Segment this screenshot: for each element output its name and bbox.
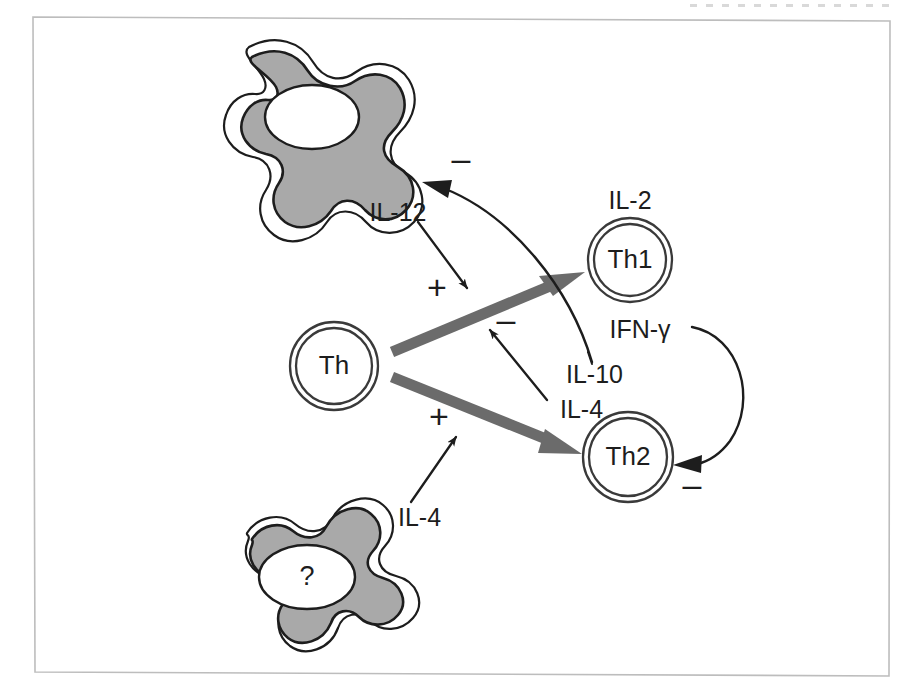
il10-minus-sign: – xyxy=(452,139,471,177)
ifn-gamma-minus-sign: – xyxy=(683,465,702,503)
il4-bottom-label: IL-4 xyxy=(398,503,441,531)
th2-label: Th2 xyxy=(606,441,651,471)
figure-frame xyxy=(33,17,890,676)
il2-label: IL-2 xyxy=(608,186,651,214)
th2-cell: Th2 xyxy=(583,412,673,502)
ifn-gamma-inhibition-arrow xyxy=(673,327,743,473)
macrophage-bottom: ? xyxy=(246,499,419,652)
macrophage-bottom-nucleus-label: ? xyxy=(299,561,314,591)
il4-middle-label: IL-4 xyxy=(560,395,603,423)
il12-label: IL-12 xyxy=(370,198,427,226)
th1-cell: Th1 xyxy=(588,218,672,302)
il4-bottom-plus-sign: + xyxy=(429,397,449,435)
figure-root: ? Th Th1 Th2 xyxy=(0,0,915,697)
scan-artifact-dots xyxy=(690,4,889,7)
diagram-canvas: ? Th Th1 Th2 xyxy=(0,0,915,697)
il12-plus-sign: + xyxy=(427,268,447,306)
ifn-gamma-label: IFN-γ xyxy=(609,315,671,343)
th-to-th2-arrow xyxy=(392,377,582,454)
il4-bottom-arrow xyxy=(411,437,456,502)
th1-label: Th1 xyxy=(608,244,653,274)
il4-minus-sign: – xyxy=(497,300,516,338)
macrophage-top-nucleus xyxy=(265,85,359,149)
il10-label: IL-10 xyxy=(566,360,623,388)
th-cell: Th xyxy=(290,322,378,410)
th-label: Th xyxy=(319,350,349,380)
il4-inhibition-arrow xyxy=(490,330,547,400)
